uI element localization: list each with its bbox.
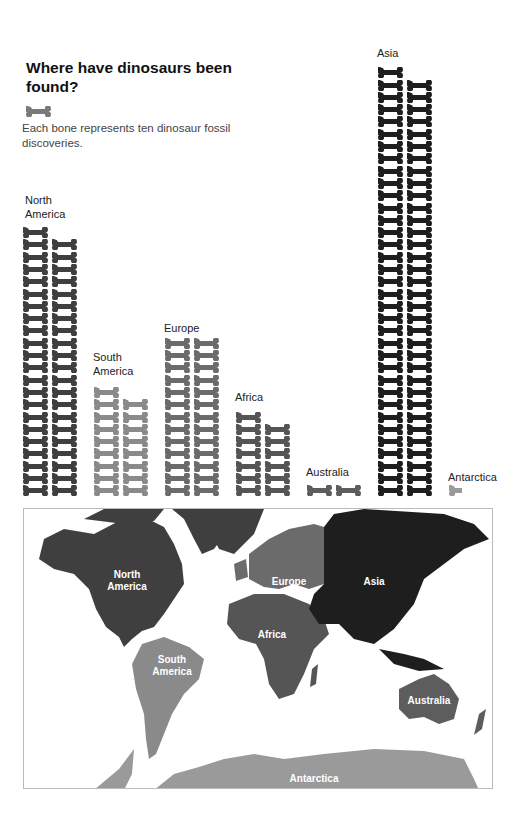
bone-icon	[407, 177, 432, 189]
bone-icon	[407, 165, 432, 177]
bone-icon	[52, 399, 77, 411]
bone-icon	[378, 226, 403, 238]
bone-icon	[336, 485, 361, 497]
bone-icon	[378, 91, 403, 103]
bone-icon	[407, 153, 432, 165]
bone-icon	[407, 349, 432, 361]
bone-icon	[52, 374, 77, 386]
bone-icon	[378, 386, 403, 398]
bone-icon	[407, 448, 432, 460]
bone-icon	[236, 436, 261, 448]
bone-icon	[94, 448, 119, 460]
bone-icon	[194, 374, 219, 386]
bone-icon	[123, 472, 148, 484]
bone-icon	[23, 399, 48, 411]
bone-column-africa-right	[265, 423, 290, 497]
map-label-asia: Asia	[354, 576, 394, 588]
bone-icon	[123, 411, 148, 423]
bone-icon	[165, 423, 190, 435]
bone-icon	[52, 300, 77, 312]
bone-icon	[407, 313, 432, 325]
bone-icon	[378, 276, 403, 288]
bone-icon	[23, 472, 48, 484]
bone-icon	[378, 153, 403, 165]
bone-icon	[378, 460, 403, 472]
legend-text: Each bone represents ten dinosaur fossil…	[22, 121, 262, 151]
bone-icon	[23, 374, 48, 386]
bone-icon	[123, 460, 148, 472]
bone-icon	[407, 251, 432, 263]
bone-icon	[94, 399, 119, 411]
bone-icon	[407, 288, 432, 300]
bone-icon	[265, 485, 290, 497]
bone-icon	[52, 362, 77, 374]
bone-icon	[407, 472, 432, 484]
bone-icon	[378, 325, 403, 337]
map-label-antarctica: Antarctica	[279, 773, 349, 785]
bone-icon	[236, 460, 261, 472]
bone-icon	[94, 411, 119, 423]
bone-icon	[378, 128, 403, 140]
bone-icon	[23, 276, 48, 288]
bone-icon	[165, 337, 190, 349]
bone-icon	[52, 239, 77, 251]
bone-icon	[407, 460, 432, 472]
bone-icon	[407, 337, 432, 349]
bone-icon	[407, 128, 432, 140]
bone-icon	[378, 288, 403, 300]
bone-icon	[407, 423, 432, 435]
bone-icon	[52, 448, 77, 460]
bone-column-europe-right	[194, 337, 219, 497]
bone-icon	[23, 349, 48, 361]
bone-icon	[378, 399, 403, 411]
world-map-svg	[24, 509, 493, 789]
bone-icon	[407, 374, 432, 386]
bone-icon	[265, 460, 290, 472]
bone-icon	[94, 436, 119, 448]
bone-column-australia-left	[307, 485, 332, 497]
bone-icon	[265, 472, 290, 484]
bone-icon	[236, 411, 261, 423]
bone-icon	[236, 472, 261, 484]
bone-icon	[165, 386, 190, 398]
bone-icon	[194, 337, 219, 349]
bone-icon	[52, 263, 77, 275]
bone-icon	[123, 436, 148, 448]
map-asia	[309, 509, 489, 644]
bone-icon	[378, 177, 403, 189]
legend-bone-icon	[26, 103, 51, 121]
bone-icon	[378, 411, 403, 423]
bone-icon	[407, 485, 432, 497]
bone-icon	[378, 423, 403, 435]
bone-icon	[23, 436, 48, 448]
bone-icon	[194, 460, 219, 472]
bone-icon	[407, 300, 432, 312]
map-label-south-america: South America	[142, 654, 202, 678]
bone-icon	[94, 423, 119, 435]
bone-icon	[378, 374, 403, 386]
bone-icon	[23, 386, 48, 398]
bone-icon	[23, 300, 48, 312]
bone-icon	[52, 313, 77, 325]
bone-icon	[165, 485, 190, 497]
bone-icon	[378, 140, 403, 152]
bone-icon	[165, 374, 190, 386]
map-label-australia: Australia	[399, 695, 459, 707]
bone-icon	[378, 436, 403, 448]
bone-icon	[52, 460, 77, 472]
bone-column-asia-right	[407, 79, 432, 497]
bone-icon	[123, 399, 148, 411]
bone-icon	[194, 411, 219, 423]
bone-icon	[378, 239, 403, 251]
bone-icon	[407, 79, 432, 91]
bone-icon	[265, 423, 290, 435]
bone-icon	[23, 448, 48, 460]
bone-icon	[378, 251, 403, 263]
bone-icon	[407, 202, 432, 214]
bone-icon	[407, 214, 432, 226]
bone-icon	[165, 460, 190, 472]
label-antarctica: Antarctica	[448, 470, 497, 484]
bone-icon	[407, 226, 432, 238]
bone-icon	[194, 399, 219, 411]
bone-icon	[378, 472, 403, 484]
